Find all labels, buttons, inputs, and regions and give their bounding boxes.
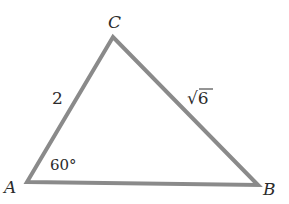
angle-label-a: 60° xyxy=(50,156,77,174)
side-label-ac: 2 xyxy=(52,88,63,108)
vertex-label-b: B xyxy=(262,179,276,199)
vertex-label-c: C xyxy=(108,12,121,32)
vertex-label-a: A xyxy=(2,177,16,197)
triangle-canvas: C A B 2 √6 60° xyxy=(0,0,289,204)
triangle-diagram: C A B 2 √6 60° xyxy=(0,0,289,204)
side-label-bc: √6 xyxy=(187,88,209,108)
